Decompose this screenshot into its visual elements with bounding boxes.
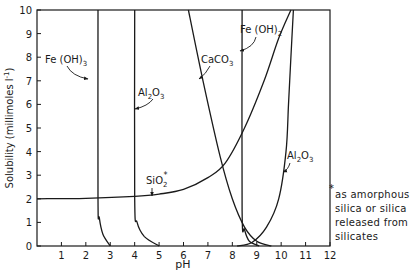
y-tick-label: 5 [26,123,32,134]
x-tick-label: 4 [131,250,137,261]
y-tick-label: 6 [26,99,32,110]
x-axis-ticks: 123456789101112 [58,242,336,261]
x-tick-label: 9 [254,250,260,261]
label-caco3: CaCO3 [201,54,233,68]
y-tick-label: 8 [26,52,32,63]
label-al2o3-acid: Al2O3 [138,87,164,101]
label-al2o3-alkaline: Al2O3 [287,150,313,164]
curve-fe-oh-3 [98,10,110,246]
x-tick-label: 5 [156,250,162,261]
y-tick-label: 2 [26,194,32,205]
footnote-line: released from [335,216,410,230]
curve-al2o3-acid-side [135,10,160,246]
y-tick-label: 0 [26,241,32,252]
y-tick-label: 1 [26,217,32,228]
label-fe-oh-3: Fe (OH)3 [45,54,87,68]
y-tick-label: 3 [26,170,32,181]
footnote-line: as amorphous [335,188,410,202]
y-axis-ticks: 012345678910 [19,5,41,252]
x-tick-label: 2 [83,250,89,261]
x-axis-label: pH [175,258,190,271]
y-tick-label: 4 [26,147,32,158]
footnote-line: silicates [335,230,410,244]
x-tick-label: 10 [275,250,288,261]
y-tick-label: 7 [26,76,32,87]
footnote: * as amorphous silica or silica released… [335,188,410,244]
plot-frame [37,10,330,246]
x-tick-label: 1 [58,250,64,261]
x-tick-label: 8 [229,250,235,261]
x-tick-label: 11 [299,250,312,261]
x-tick-label: 3 [107,250,113,261]
y-tick-label: 10 [19,5,32,16]
solubility-curves [37,10,293,246]
x-tick-label: 12 [324,250,337,261]
x-tick-label: 7 [205,250,211,261]
y-axis-label: Solubility (millimoles l-1) [3,67,15,188]
curve-al2o3-alkaline-side [237,10,293,246]
label-fe-oh-2: Fe (OH)2 [240,24,282,38]
curve-caco3 [188,10,271,246]
label-sio2: SiO2* [146,171,167,189]
y-tick-label: 9 [26,29,32,40]
footnote-star: * [329,182,334,196]
footnote-line: silica or silica [335,202,410,216]
